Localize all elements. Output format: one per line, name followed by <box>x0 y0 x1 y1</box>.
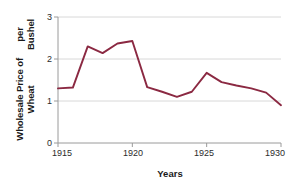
x-tick-label-1920: 1920 <box>116 148 150 158</box>
y-axis-label-line-2: per Bushel <box>14 15 36 54</box>
y-tick-label-0: 0 <box>38 138 52 148</box>
chart-figure: Wholesale Price of Wheat per Bushel 3 2 … <box>0 0 298 190</box>
y-axis-label-line-1: Wholesale Price of Wheat <box>14 54 36 145</box>
y-tick-label-2: 2 <box>38 54 52 64</box>
y-tick-label-3: 3 <box>38 12 52 22</box>
y-axis-label-wrapper: Wholesale Price of Wheat per Bushel <box>5 57 31 187</box>
y-axis-label: Wholesale Price of Wheat per Bushel <box>12 15 38 145</box>
plot-area <box>0 0 298 190</box>
x-tick-label-1930: 1930 <box>258 148 292 158</box>
x-tick-label-1915: 1915 <box>45 148 79 158</box>
y-tick-label-1: 1 <box>38 96 52 106</box>
x-tick-label-1925: 1925 <box>187 148 221 158</box>
x-axis-label: Years <box>58 168 282 179</box>
plot-background <box>58 17 281 143</box>
